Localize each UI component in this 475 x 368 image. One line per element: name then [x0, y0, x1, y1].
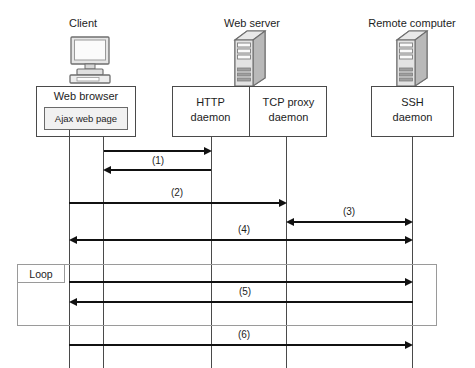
lifeline-tcp-proxy-daemon	[286, 137, 287, 368]
participant-label-http-daemon-line1: HTTP	[172, 94, 249, 109]
participant-label-tcp-proxy-daemon-line1: TCP proxy	[250, 94, 327, 109]
message-line-4	[77, 239, 405, 241]
arrowhead-left-5b	[69, 298, 77, 306]
participant-box-ajax-web-page: Ajax web page	[44, 107, 128, 130]
message-label-5: (5)	[209, 286, 281, 298]
lifeline-ssh-daemon	[412, 137, 413, 368]
lifeline-ajax-web-page	[69, 130, 70, 368]
message-label-3: (3)	[313, 206, 385, 218]
participant-label-tcp-proxy-daemon-line2: daemon	[250, 109, 327, 124]
participant-label-http-daemon-line2: daemon	[172, 109, 249, 124]
message-line-5a	[69, 281, 405, 283]
message-line-2	[69, 202, 279, 204]
arrowhead-left-3	[286, 218, 294, 226]
message-line-6	[69, 344, 405, 346]
message-line-5b	[77, 301, 413, 303]
message-label-6: (6)	[208, 329, 280, 341]
message-line-1b	[111, 169, 211, 171]
arrowhead-right-2	[279, 199, 287, 207]
participant-label-ssh-daemon-line2: daemon	[371, 109, 454, 124]
server-tower-icon-remote-computer	[391, 28, 433, 90]
message-label-4: (4)	[208, 224, 280, 236]
desktop-computer-icon	[64, 36, 116, 88]
message-label-2: (2)	[141, 187, 213, 199]
message-label-1: (1)	[122, 155, 194, 167]
loop-fragment-label-text: Loop	[29, 268, 52, 280]
loop-fragment-label: Loop	[17, 264, 65, 283]
sequence-diagram-canvas: Client Web server Remote computer	[0, 0, 475, 368]
arrowhead-left-4	[69, 236, 77, 244]
participant-label-ssh-daemon-line1: SSH	[371, 94, 454, 109]
arrowhead-left-1b	[103, 166, 111, 174]
arrowhead-right-3	[405, 218, 413, 226]
message-line-3	[294, 221, 405, 223]
participant-label-ajax-web-page: Ajax web page	[55, 113, 117, 125]
arrowhead-right-4	[405, 236, 413, 244]
message-line-1a	[104, 150, 204, 152]
arrowhead-right-6	[405, 341, 413, 349]
arrowhead-right-1a	[204, 147, 212, 155]
header-client: Client	[48, 17, 118, 30]
participant-label-web-browser: Web browser	[36, 88, 136, 104]
server-tower-icon-web-server	[229, 28, 271, 90]
arrowhead-right-5a	[405, 278, 413, 286]
